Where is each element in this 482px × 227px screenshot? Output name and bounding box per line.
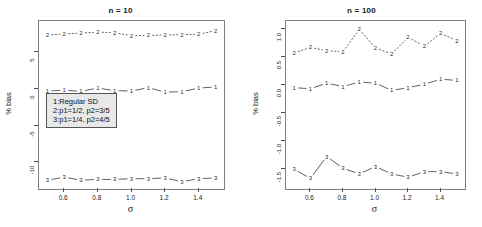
y-axis-title: % bias <box>4 20 13 188</box>
data-point-marker-1: 1 <box>163 89 166 95</box>
series-3-segment <box>347 170 356 173</box>
series-2-segment <box>203 31 212 33</box>
x-axis-tick-label: 1.4 <box>428 194 452 201</box>
data-point-marker-3: 3 <box>79 177 82 183</box>
x-axis-tick <box>440 188 441 192</box>
data-point-marker-2: 2 <box>374 45 377 51</box>
series-1-segment <box>331 84 339 86</box>
x-axis-tick <box>63 188 64 192</box>
y-axis-title: % bias <box>251 20 260 188</box>
series-2-segment <box>119 33 128 35</box>
plot-area: 111111111112222222222233333333333 <box>286 21 465 189</box>
data-point-marker-2: 2 <box>406 34 409 40</box>
y-axis-tick-label: -1.0 <box>276 139 282 159</box>
y-axis-tick-label: -5 <box>29 124 35 144</box>
x-axis-tick-label: 0.8 <box>330 194 354 201</box>
data-point-marker-3: 3 <box>423 169 426 175</box>
x-axis-tick <box>131 188 132 192</box>
series-1-segment <box>203 87 212 88</box>
series-1-segment <box>68 91 77 92</box>
series-1-segment <box>314 84 323 87</box>
series-3-segment <box>313 160 324 175</box>
x-axis-tick-label: 0.8 <box>85 194 109 201</box>
series-2-segment <box>331 51 339 52</box>
series-3-segment <box>412 173 421 176</box>
series-3-segment <box>363 168 372 172</box>
series-2-segment <box>395 40 406 51</box>
data-point-marker-1: 1 <box>309 86 312 92</box>
x-axis-tick <box>97 188 98 192</box>
data-point-marker-1: 1 <box>325 80 328 86</box>
data-point-marker-3: 3 <box>390 171 393 177</box>
legend-box: 1:Regular SD2:p1=1/2, p2=3/53:p1=1/4, p2… <box>46 93 117 128</box>
y-axis-tick-label: -10 <box>29 160 35 180</box>
data-point-marker-3: 3 <box>325 154 328 160</box>
data-point-marker-3: 3 <box>374 164 377 170</box>
series-1-segment <box>379 85 388 89</box>
data-point-marker-3: 3 <box>46 177 49 183</box>
series-1-segment <box>347 83 356 85</box>
data-point-marker-2: 2 <box>147 32 150 38</box>
series-3-segment <box>169 179 178 181</box>
series-3-segment <box>298 171 307 176</box>
data-point-marker-2: 2 <box>423 43 426 49</box>
data-point-marker-2: 2 <box>113 30 116 36</box>
panel-title: n = 10 <box>0 6 241 15</box>
series-3-segment <box>379 168 388 172</box>
panel-title: n = 100 <box>241 6 482 15</box>
series-2-segment <box>345 33 357 49</box>
legend-entry: 1:Regular SD <box>53 97 110 106</box>
data-point-marker-3: 3 <box>180 179 183 185</box>
data-point-marker-3: 3 <box>63 174 66 180</box>
x-axis-title: σ <box>38 203 223 214</box>
data-point-marker-3: 3 <box>292 166 295 172</box>
x-axis-tick-label: 1.0 <box>119 194 143 201</box>
series-3-segment <box>51 178 60 180</box>
data-point-marker-2: 2 <box>63 31 66 37</box>
series-2-segment <box>362 32 373 44</box>
data-point-marker-3: 3 <box>406 174 409 180</box>
data-point-marker-1: 1 <box>374 80 377 86</box>
series-3-segment <box>396 175 404 177</box>
data-point-marker-1: 1 <box>406 85 409 91</box>
data-point-marker-3: 3 <box>358 171 361 177</box>
y-axis-tick-label: 5 <box>29 50 35 70</box>
y-axis-tick-label: 0.0 <box>276 83 282 103</box>
data-point-marker-1: 1 <box>130 88 133 94</box>
x-axis-title: σ <box>285 203 464 214</box>
data-point-marker-2: 2 <box>292 50 295 56</box>
y-axis-tick-label: 0 <box>29 87 35 107</box>
series-1-segment <box>102 89 111 90</box>
series-2-segment <box>51 34 60 35</box>
data-point-marker-2: 2 <box>180 32 183 38</box>
x-axis-tick <box>309 188 310 192</box>
data-point-marker-2: 2 <box>325 48 328 54</box>
data-point-marker-3: 3 <box>163 175 166 181</box>
x-axis-tick-label: 1.0 <box>363 194 387 201</box>
data-point-marker-1: 1 <box>439 76 442 82</box>
series-1-segment <box>396 88 404 89</box>
data-point-marker-1: 1 <box>455 77 458 83</box>
series-1-segment <box>445 80 453 81</box>
data-point-marker-2: 2 <box>309 44 312 50</box>
series-3-segment <box>330 159 340 166</box>
data-point-marker-1: 1 <box>197 85 200 91</box>
data-point-marker-2: 2 <box>130 33 133 39</box>
x-axis-tick-label: 1.4 <box>186 194 210 201</box>
series-1-segment <box>152 89 161 91</box>
plot-frame: 111111111112222222222233333333333 <box>285 20 466 190</box>
y-axis-tick-label: -0.5 <box>276 111 282 131</box>
data-point-marker-1: 1 <box>180 89 183 95</box>
series-1-segment <box>85 89 94 91</box>
data-point-marker-1: 1 <box>341 84 344 90</box>
data-point-marker-3: 3 <box>439 169 442 175</box>
series-2-segment <box>85 32 94 33</box>
series-1-segment <box>363 82 371 83</box>
x-axis-tick <box>198 188 199 192</box>
x-axis-tick <box>342 188 343 192</box>
legend-entry: 3:p1=1/4, p2=4/5 <box>53 115 110 124</box>
series-2-segment <box>444 35 453 39</box>
data-point-marker-3: 3 <box>147 176 150 182</box>
x-axis-tick <box>164 188 165 192</box>
data-point-marker-1: 1 <box>423 81 426 87</box>
